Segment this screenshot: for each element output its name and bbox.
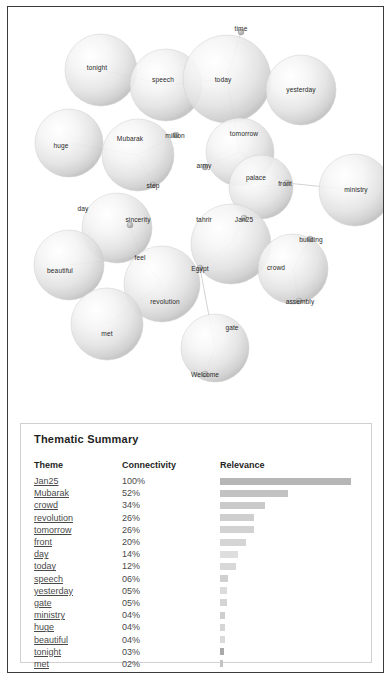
bubble-network-svg <box>8 7 383 399</box>
cell-connectivity: 02% <box>122 658 220 670</box>
bubble-node[interactable] <box>258 234 328 304</box>
table-row: revolution26% <box>34 512 360 524</box>
theme-link[interactable]: met <box>34 659 49 669</box>
column-header-relevance: Relevance <box>220 460 360 475</box>
bubble-node[interactable] <box>127 222 133 228</box>
table-row: front20% <box>34 536 360 548</box>
relevance-bar <box>220 660 223 667</box>
bubble-node[interactable] <box>34 230 104 300</box>
bubble-node[interactable] <box>173 132 179 138</box>
table-row: speech06% <box>34 573 360 585</box>
theme-link[interactable]: front <box>34 537 52 547</box>
document-frame: tonightspeechtodayyesterdaytimehugeMubar… <box>7 6 384 673</box>
cell-connectivity: 26% <box>122 512 220 524</box>
relevance-bar <box>220 563 236 570</box>
table-row: ministry04% <box>34 609 360 621</box>
table-row: day14% <box>34 548 360 560</box>
bubble-node[interactable] <box>102 119 174 191</box>
cell-relevance <box>220 548 360 560</box>
theme-link[interactable]: speech <box>34 574 63 584</box>
cell-relevance <box>220 573 360 585</box>
theme-link[interactable]: today <box>34 561 56 571</box>
cell-connectivity: 04% <box>122 609 220 621</box>
theme-link[interactable]: revolution <box>34 513 73 523</box>
relevance-bar <box>220 624 225 631</box>
theme-link[interactable]: tonight <box>34 647 61 657</box>
table-body: Jan25100%Mubarak52%crowd34%revolution26%… <box>34 475 360 670</box>
cell-connectivity: 20% <box>122 536 220 548</box>
cell-connectivity: 05% <box>122 585 220 597</box>
bubble-node[interactable] <box>202 371 208 377</box>
table-row: tomorrow26% <box>34 524 360 536</box>
app-root: tonightspeechtodayyesterdaytimehugeMubar… <box>0 0 392 681</box>
column-header-connectivity: Connectivity <box>122 460 220 475</box>
relevance-bar <box>220 478 351 485</box>
cell-theme: yesterday <box>34 585 122 597</box>
theme-link[interactable]: ministry <box>34 610 65 620</box>
table-row: gate05% <box>34 597 360 609</box>
bubble-node[interactable] <box>266 55 336 125</box>
bubble-node[interactable] <box>65 34 137 106</box>
theme-link[interactable]: beautiful <box>34 635 68 645</box>
cell-theme: met <box>34 658 122 670</box>
theme-link[interactable]: Jan25 <box>34 476 59 486</box>
theme-link[interactable]: huge <box>34 622 54 632</box>
cell-connectivity: 14% <box>122 548 220 560</box>
bubble-node[interactable] <box>181 314 249 382</box>
bubble-node[interactable] <box>241 215 247 221</box>
cell-theme: Jan25 <box>34 475 122 487</box>
bubble-node[interactable] <box>35 109 103 177</box>
cell-theme: front <box>34 536 122 548</box>
bubble-node[interactable] <box>238 29 244 35</box>
relevance-bar <box>220 612 225 619</box>
cell-connectivity: 05% <box>122 597 220 609</box>
theme-link[interactable]: Mubarak <box>34 488 69 498</box>
bubble-node[interactable] <box>284 180 290 186</box>
cell-relevance <box>220 597 360 609</box>
cell-theme: crowd <box>34 499 122 511</box>
table-row: Jan25100% <box>34 475 360 487</box>
cell-relevance <box>220 633 360 645</box>
bubble-node[interactable] <box>202 164 208 170</box>
cell-relevance <box>220 609 360 621</box>
theme-link[interactable]: crowd <box>34 500 58 510</box>
relevance-bar <box>220 490 288 497</box>
cell-connectivity: 100% <box>122 475 220 487</box>
theme-link[interactable]: tomorrow <box>34 525 72 535</box>
relevance-bar <box>220 648 224 655</box>
theme-link[interactable]: yesterday <box>34 586 73 596</box>
cell-theme: day <box>34 548 122 560</box>
table-row: tonight03% <box>34 646 360 658</box>
relevance-bar <box>220 514 254 521</box>
theme-link[interactable]: day <box>34 549 49 559</box>
table-row: beautiful04% <box>34 633 360 645</box>
cell-relevance <box>220 658 360 670</box>
header-row: Theme Connectivity Relevance <box>34 460 360 475</box>
bubble-node[interactable] <box>319 154 383 226</box>
table-row: Mubarak52% <box>34 487 360 499</box>
cell-theme: ministry <box>34 609 122 621</box>
theme-link[interactable]: gate <box>34 598 52 608</box>
bubble-node[interactable] <box>150 182 156 188</box>
cell-theme: huge <box>34 621 122 633</box>
cell-connectivity: 12% <box>122 560 220 572</box>
bubble-node[interactable] <box>296 298 302 304</box>
cell-connectivity: 03% <box>122 646 220 658</box>
cell-connectivity: 04% <box>122 633 220 645</box>
bubble-node[interactable] <box>71 288 143 360</box>
relevance-bar <box>220 587 227 594</box>
cell-relevance <box>220 487 360 499</box>
bubble-node[interactable] <box>197 265 203 271</box>
cell-connectivity: 34% <box>122 499 220 511</box>
cell-theme: tonight <box>34 646 122 658</box>
cell-theme: tomorrow <box>34 524 122 536</box>
cell-connectivity: 04% <box>122 621 220 633</box>
cell-relevance <box>220 585 360 597</box>
panel-title: Thematic Summary <box>34 433 139 445</box>
cell-connectivity: 26% <box>122 524 220 536</box>
bubble-node[interactable] <box>183 35 271 123</box>
cell-theme: gate <box>34 597 122 609</box>
cell-relevance <box>220 512 360 524</box>
bubble-node[interactable] <box>307 236 313 242</box>
relevance-bar <box>220 526 254 533</box>
